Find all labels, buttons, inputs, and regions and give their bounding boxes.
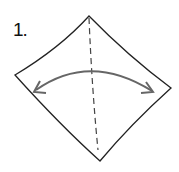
fold-arrow-arc <box>36 71 152 91</box>
fold-line-dashed <box>89 18 98 150</box>
origami-diagram <box>0 0 179 172</box>
